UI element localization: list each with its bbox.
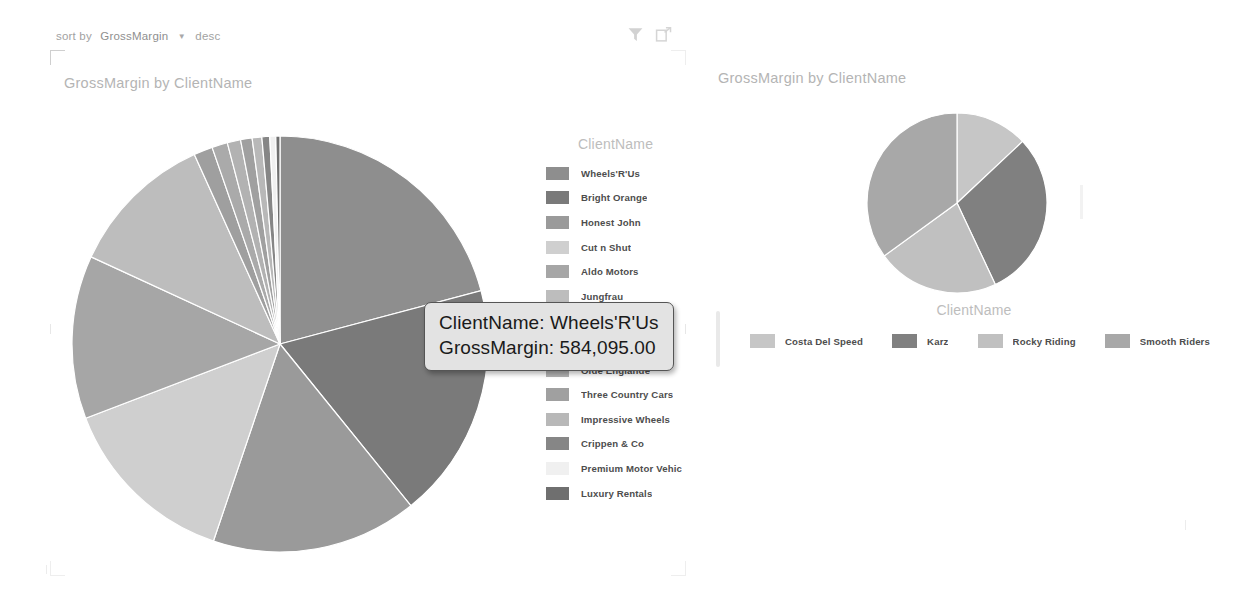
selection-handle-middle-left[interactable] xyxy=(50,324,65,334)
selection-handle-top-left[interactable] xyxy=(50,50,65,65)
sort-direction-button[interactable]: desc xyxy=(195,30,220,42)
legend-swatch xyxy=(978,334,1003,348)
legend-right[interactable]: Costa Del SpeedKarzRocky RidingSmooth Ri… xyxy=(750,332,1210,350)
sort-by-label: sort by xyxy=(56,30,92,42)
sort-field-button[interactable]: GrossMargin xyxy=(100,30,168,42)
legend-item-label: Luxury Rentals xyxy=(581,488,652,499)
legend-item[interactable]: Impressive Wheels xyxy=(538,407,710,432)
legend-item-label: Impressive Wheels xyxy=(581,414,670,425)
legend-item-label: Crippen & Co xyxy=(581,438,644,449)
canvas-tick-left xyxy=(46,565,47,574)
legend-item[interactable]: Crippen & Co xyxy=(538,432,710,457)
legend-item-label: Smooth Riders xyxy=(1140,336,1210,347)
tooltip-gross-margin: GrossMargin: 584,095.00 xyxy=(439,335,659,360)
legend-item[interactable]: Bright Orange xyxy=(538,186,710,211)
legend-item[interactable]: Premium Motor Vehic xyxy=(538,456,710,481)
pie-chart-right[interactable] xyxy=(866,112,1048,294)
legend-item-label: Jungfrau xyxy=(581,291,623,302)
legend-item[interactable]: Rocky Riding xyxy=(978,332,1076,350)
filter-icon[interactable] xyxy=(627,26,644,43)
legend-item-label: Three Country Cars xyxy=(581,389,673,400)
legend-swatch xyxy=(546,487,569,500)
legend-swatch xyxy=(546,462,569,475)
legend-swatch xyxy=(546,191,569,204)
legend-swatch xyxy=(892,334,917,348)
gross-margin-by-client-tile-right[interactable]: GrossMargin by ClientName ClientName Cos… xyxy=(714,70,1234,370)
legend-swatch xyxy=(546,216,569,229)
legend-item-label: Honest John xyxy=(581,217,641,228)
legend-item-label: Karz xyxy=(927,336,948,347)
gross-margin-by-client-tile-left[interactable]: sort by GrossMargin ▼ desc GrossMargin b… xyxy=(46,24,686,584)
legend-swatch xyxy=(546,265,569,278)
legend-item-label: Cut n Shut xyxy=(581,242,631,253)
legend-item[interactable]: Luxury Rentals xyxy=(538,481,710,506)
legend-item-label: Rocky Riding xyxy=(1013,336,1076,347)
legend-item-label: Bright Orange xyxy=(581,192,647,203)
legend-item-label: Wheels'R'Us xyxy=(581,168,640,179)
legend-item[interactable]: Honest John xyxy=(538,210,710,235)
tooltip: ClientName: Wheels'R'Us GrossMargin: 584… xyxy=(424,302,674,371)
legend-swatch xyxy=(546,290,569,303)
chevron-down-icon[interactable]: ▼ xyxy=(178,32,186,41)
legend-item[interactable]: Costa Del Speed xyxy=(750,332,863,350)
page-title-right: GrossMargin by ClientName xyxy=(718,70,906,86)
canvas-tick-right xyxy=(1185,520,1186,530)
legend-item[interactable]: Smooth Riders xyxy=(1105,332,1210,350)
legend-swatch xyxy=(546,437,569,450)
legend-swatch xyxy=(546,413,569,426)
legend-swatch xyxy=(546,388,569,401)
legend-item[interactable]: Three Country Cars xyxy=(538,382,710,407)
legend-item[interactable]: Karz xyxy=(892,332,948,350)
legend-item-label: Premium Motor Vehic xyxy=(581,463,682,474)
legend-swatch xyxy=(1105,334,1130,348)
selection-handle-top-right[interactable] xyxy=(671,50,686,65)
pie-chart-right-svg[interactable] xyxy=(866,112,1048,294)
legend-item[interactable]: Cut n Shut xyxy=(538,235,710,260)
focus-mode-icon[interactable] xyxy=(655,26,672,43)
legend-title-left: ClientName xyxy=(578,136,710,152)
selection-handle-bottom-left[interactable] xyxy=(50,561,65,576)
tile-actions[interactable] xyxy=(627,26,672,43)
legend-item[interactable]: Aldo Motors xyxy=(538,259,710,284)
legend-swatch xyxy=(750,334,775,348)
legend-title-right: ClientName xyxy=(714,302,1234,318)
page-title-left: GrossMargin by ClientName xyxy=(64,75,252,91)
decorative-mark xyxy=(1080,185,1083,219)
sort-bar[interactable]: sort by GrossMargin ▼ desc xyxy=(56,30,220,42)
legend-swatch xyxy=(546,241,569,254)
tooltip-client-name: ClientName: Wheels'R'Us xyxy=(439,310,659,335)
legend-item-label: Costa Del Speed xyxy=(785,336,863,347)
legend-swatch xyxy=(546,167,569,180)
legend-item-label: Aldo Motors xyxy=(581,266,639,277)
legend-item[interactable]: Wheels'R'Us xyxy=(538,161,710,186)
